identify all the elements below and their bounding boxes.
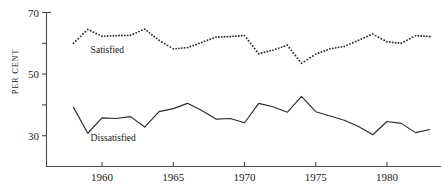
x-axis-tick-labels: 19601965197019751980 (91, 171, 399, 183)
x-tick-label-1970: 1970 (234, 171, 257, 183)
data-series (73, 28, 431, 135)
chart-plot-area: 305070 19601965197019751980 PER CENT Sat… (0, 0, 441, 194)
x-tick-label-1980: 1980 (376, 171, 399, 183)
y-axis-title: PER CENT (11, 49, 20, 95)
series-line-dissatisfied (74, 96, 430, 135)
x-tick-label-1975: 1975 (305, 171, 328, 183)
y-tick-label-70: 70 (28, 7, 40, 19)
y-axis-title-text: PER CENT (11, 49, 20, 95)
y-axis-tick-labels: 305070 (28, 7, 40, 142)
series-dissatisfied (74, 96, 430, 135)
x-tick-label-1965: 1965 (162, 171, 185, 183)
series-annotations: SatisfiedDissatisfied (91, 44, 137, 144)
satisfied-label: Satisfied (91, 44, 125, 55)
y-tick-label-50: 50 (28, 68, 40, 80)
tick-marks (42, 13, 387, 167)
y-tick-label-30: 30 (28, 130, 40, 142)
chart-figure: 305070 19601965197019751980 PER CENT Sat… (0, 0, 441, 194)
dissatisfied-label: Dissatisfied (91, 132, 137, 143)
series-satisfied (73, 28, 431, 64)
x-tick-label-1960: 1960 (91, 171, 114, 183)
